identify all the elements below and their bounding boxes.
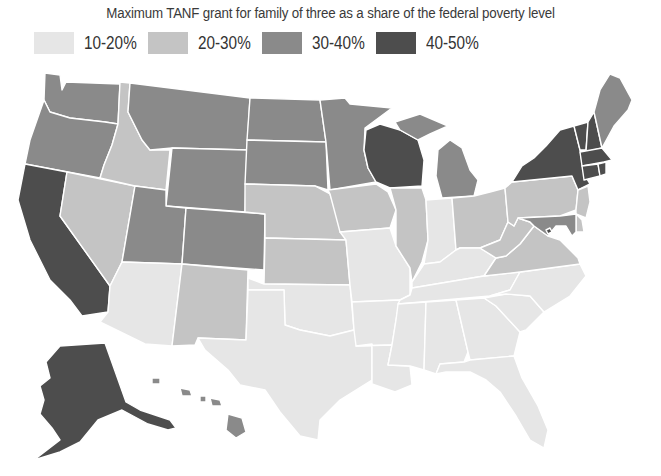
state-WY: [166, 148, 247, 212]
state-ME: [594, 74, 632, 148]
state-DC: [546, 228, 552, 234]
state-IA: [328, 184, 396, 232]
state-FL: [436, 356, 548, 448]
state-KS: [264, 238, 350, 285]
us-map: [0, 0, 661, 476]
state-CO: [182, 208, 265, 270]
state-MT: [128, 83, 250, 150]
state-CT: [582, 164, 600, 180]
state-MA: [580, 148, 612, 166]
state-RI: [598, 162, 606, 176]
state-NM: [172, 264, 248, 346]
state-ND: [247, 98, 326, 142]
state-SD: [245, 140, 328, 190]
state-NJ: [576, 186, 590, 218]
state-AK: [34, 343, 176, 460]
